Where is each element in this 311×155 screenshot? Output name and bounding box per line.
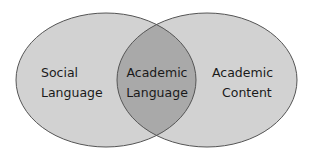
left-set-label-line1: Social [41,65,78,80]
left-set-label-line2: Language [41,85,103,100]
right-set-label-line2: Content [222,85,272,100]
venn-diagram: Social Language Academic Language Academ… [0,0,311,155]
intersection-label-line1: Academic [126,65,187,80]
intersection-label-line2: Language [126,85,188,100]
right-set-label-line1: Academic [212,65,273,80]
